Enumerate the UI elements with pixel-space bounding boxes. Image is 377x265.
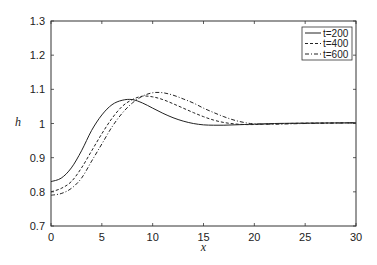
line-chart: 0510152025300.70.80.911.11.21.3 x h t=20… [0, 0, 377, 265]
x-axis-label: x [200, 240, 207, 254]
legend-label: t=600 [323, 49, 349, 60]
y-tick-label: 1.3 [30, 15, 45, 27]
series-curves [51, 92, 356, 195]
y-tick-label: 1.1 [30, 83, 45, 95]
y-tick-label: 1 [39, 118, 45, 130]
y-tick-label: 0.9 [30, 152, 45, 164]
x-tick-label: 30 [350, 231, 362, 243]
x-tick-label: 0 [48, 231, 54, 243]
y-tick-label: 1.2 [30, 49, 45, 61]
x-tick-label: 25 [299, 231, 311, 243]
series-line-t-200 [51, 99, 356, 181]
legend: t=200t=400t=600 [302, 27, 352, 60]
y-axis-label: h [15, 115, 21, 129]
x-tick-label: 10 [147, 231, 159, 243]
x-tick-label: 5 [99, 231, 105, 243]
legend-label: t=400 [323, 38, 349, 49]
x-tick-label: 20 [248, 231, 260, 243]
series-line-t-400 [51, 96, 356, 192]
series-line-t-600 [51, 92, 356, 195]
y-tick-label: 0.7 [30, 220, 45, 232]
legend-label: t=200 [323, 28, 349, 39]
y-tick-label: 0.8 [30, 186, 45, 198]
